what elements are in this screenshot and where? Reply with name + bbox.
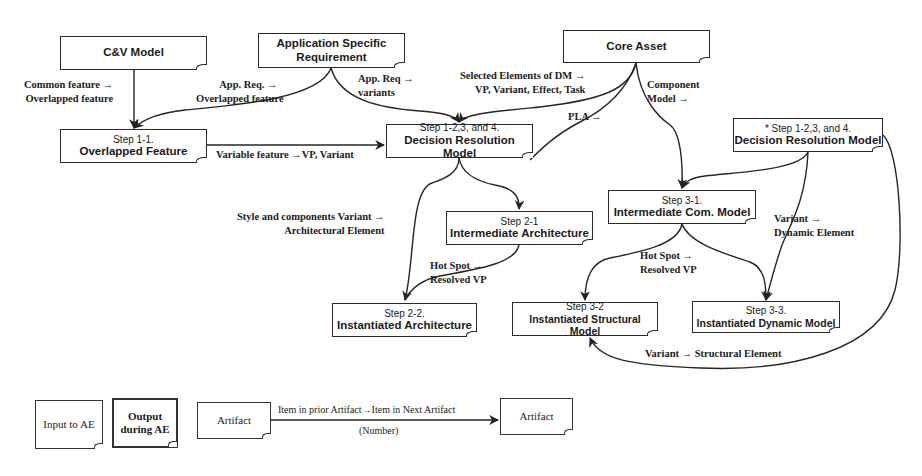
node-step-3-2: Step 3-2 Instantiated Structural Model [512, 302, 658, 336]
dog-ear-icon [168, 441, 177, 447]
node-step-2-1: Step 2-1 Intermediate Architecture [446, 211, 593, 245]
node-step-number: Step 2-1 [501, 216, 539, 228]
dog-ear-icon [466, 331, 477, 337]
dog-ear-icon [196, 157, 207, 163]
node-step-1-234-right: * Step 1-2,3, and 4. Decision Resolution… [733, 118, 883, 152]
node-step-number: Step 1-2,3, and 4. [420, 122, 500, 134]
dog-ear-icon [394, 62, 405, 68]
edge-drm-to-step21 [459, 158, 519, 209]
edge-label-line2: Architectural Element [237, 224, 385, 238]
edge-label-line2: Resolved VP [430, 273, 487, 287]
legend-artifact-left: Artifact [197, 402, 271, 439]
edge-label-line2: VP, Variant, Effect, Task [460, 83, 585, 97]
dog-ear-icon [699, 57, 710, 63]
node-step-number: Step 3-3. [746, 305, 787, 317]
legend-output-during-ae: Output during AE [112, 398, 178, 448]
edge-label-line2: Dynamic Element [774, 226, 854, 240]
node-label: Instantiated Structural Model [513, 313, 657, 337]
edge-label-line1: Variable feature →VP, Variant [216, 148, 354, 162]
node-step-3-1: Step 3-1. Intermediate Com. Model [608, 190, 756, 224]
edge-label-line2: Overlapped feature [196, 92, 284, 106]
edge-label-hot-spot-com: Hot Spot → Resolved VP [640, 249, 697, 277]
node-label: Core Asset [606, 40, 666, 53]
node-step-number: Step 2-2. [384, 308, 425, 320]
node-application-specific-requirement: Application Specific Requirement [258, 33, 405, 68]
legend-output-label-line1: Output [128, 410, 162, 423]
node-step-3-3: Step 3-3. Instantiated Dynamic Model [692, 301, 840, 333]
edge-label-line2: variants [358, 86, 414, 100]
node-cv-model: C&V Model [60, 36, 207, 70]
node-label: Instantiated Architecture [337, 319, 472, 332]
node-step-number: Step 3-1. [662, 195, 703, 207]
edge-label-app-req-overlapped: App. Req. → Overlapped feature [196, 78, 284, 106]
legend-output-label-line2: during AE [120, 423, 169, 436]
edge-label-line2: Overlapped feature [24, 92, 113, 106]
legend-input-label: Input to AE [43, 418, 94, 431]
edge-label-line1: Variant → Structural Element [645, 347, 781, 361]
node-step-number: Step 1-1. [113, 134, 154, 146]
legend-input-to-ae: Input to AE [35, 400, 103, 449]
node-label: Overlapped Feature [79, 145, 187, 158]
node-core-asset: Core Asset [563, 30, 710, 63]
edge-label-line1: Variant → [774, 212, 854, 226]
legend-artifact-label: Artifact [217, 414, 251, 427]
edge-label-style-components: Style and components Variant → Architect… [237, 210, 385, 238]
dog-ear-icon [196, 64, 207, 70]
node-step-number: Step 3-2 [566, 301, 604, 313]
edge-label-hot-spot-arch: Hot Spot → Resolved VP [430, 259, 487, 287]
edge-label-line2: Resolved VP [640, 263, 697, 277]
node-label-line2: Requirement [296, 51, 366, 64]
node-label-line1: Application Specific [277, 37, 387, 50]
edge-label-selected-elements: Selected Elements of DM → VP, Variant, E… [460, 69, 585, 97]
dog-ear-icon [564, 429, 573, 435]
edge-label-line1: Hot Spot → [640, 249, 697, 263]
node-step-1-234-center: Step 1-2,3, and 4. Decision Resolution M… [386, 124, 533, 158]
edge-label-variant-structural: Variant → Structural Element [645, 347, 781, 361]
node-label: Decision Resolution Model [387, 134, 532, 160]
dog-ear-icon [262, 433, 271, 439]
edge-label-variable-feature: Variable feature →VP, Variant [216, 148, 354, 162]
node-step-1-1: Step 1-1. Overlapped Feature [60, 129, 207, 163]
edge-label-line2: Model → [647, 92, 700, 106]
node-step-2-2: Step 2-2. Instantiated Architecture [332, 303, 477, 337]
edge-label-line1: Common feature → [24, 78, 113, 92]
node-label: C&V Model [103, 46, 164, 59]
node-label: Intermediate Com. Model [614, 206, 751, 219]
edge-rdrm-to-step31 [682, 152, 808, 188]
edge-label-app-req-variants: App. Req → variants [358, 72, 414, 100]
dog-ear-icon [582, 239, 593, 245]
edge-label-variant-dynamic: Variant → Dynamic Element [774, 212, 854, 240]
node-label: Instantiated Dynamic Model [697, 317, 836, 329]
edge-label-line1: PLA → [568, 110, 602, 124]
legend-artifact-label: Artifact [519, 410, 553, 423]
dog-ear-icon [94, 443, 103, 449]
edge-label-component-model: Component Model → [647, 78, 700, 106]
dog-ear-icon [522, 152, 533, 158]
edge-label-line1: Selected Elements of DM → [460, 69, 585, 83]
node-step-number: * Step 1-2,3, and 4. [765, 123, 851, 135]
dog-ear-icon [829, 327, 840, 333]
legend-arrow-number: (Number) [359, 425, 398, 436]
legend-artifact-right: Artifact [500, 398, 573, 435]
edge-label-line1: App. Req. → [196, 78, 284, 92]
dog-ear-icon [647, 330, 658, 336]
node-label: Decision Resolution Model [735, 134, 882, 147]
edge-label-line1: Hot Spot → [430, 259, 487, 273]
edge-label-line1: App. Req → [358, 72, 414, 86]
legend-arrow-label: Item in prior Artifact→Item in Next Arti… [278, 404, 455, 415]
dog-ear-icon [745, 218, 756, 224]
node-label: Intermediate Architecture [450, 227, 589, 240]
edge-label-pla: PLA → [568, 110, 602, 124]
dog-ear-icon [872, 146, 883, 152]
edge-label-common-feature: Common feature → Overlapped feature [24, 78, 113, 106]
edge-label-line1: Style and components Variant → [237, 210, 385, 224]
edge-label-line1: Component [647, 78, 700, 92]
